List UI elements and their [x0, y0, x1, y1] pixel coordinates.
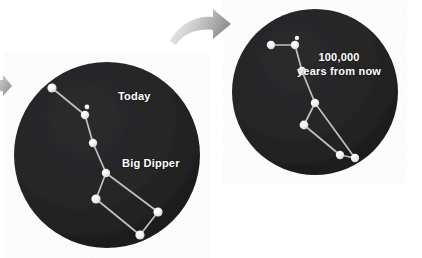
star-megrez — [311, 99, 319, 107]
star-alioth — [298, 67, 306, 75]
transition-arrow-icon — [170, 9, 231, 45]
future-sky-disc — [232, 9, 398, 175]
future-panel — [232, 9, 398, 175]
star-merak — [336, 151, 344, 159]
star-mizar-b — [295, 36, 299, 40]
today-sky-disc — [14, 62, 200, 248]
star-alioth — [89, 139, 97, 147]
diagram-figure: Today Big Dipper 100,000 years from now — [0, 0, 422, 258]
star-alkaid — [47, 83, 56, 92]
incoming-arrow-icon — [0, 75, 12, 96]
star-mizar-b — [85, 105, 90, 110]
today-panel — [14, 62, 200, 248]
star-mizar — [81, 111, 89, 119]
star-dubhe — [351, 154, 359, 162]
star-alkaid — [267, 41, 275, 49]
star-megrez — [102, 169, 110, 177]
star-dubhe — [153, 207, 162, 216]
star-phecda — [91, 194, 100, 203]
star-phecda — [300, 121, 309, 130]
star-mizar — [291, 41, 299, 49]
constellation-canvas — [0, 0, 422, 258]
star-merak — [135, 230, 144, 239]
